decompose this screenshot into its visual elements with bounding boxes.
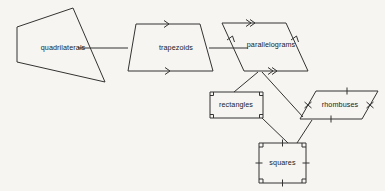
diagram-canvas: quadrilaterals trapezoids (0, 0, 385, 191)
connector-group (78, 48, 312, 143)
right-angle-mark-bottom-right-icon (260, 115, 264, 119)
node-rhombuses[interactable]: rhombuses (300, 88, 378, 123)
connector-parallelograms-to-rhombuses (262, 72, 303, 117)
node-label-trapezoids: trapezoids (159, 43, 193, 52)
node-parallelograms[interactable]: parallelograms (222, 20, 308, 75)
node-squares[interactable]: squares (256, 140, 310, 187)
connector-rectangles-to-squares (262, 118, 288, 143)
right-angle-mark-top-left-icon (259, 143, 263, 147)
right-angle-mark-top-right-icon (302, 143, 306, 147)
right-angle-mark-bottom-right-icon (302, 179, 306, 183)
quadrilateral-hierarchy-diagram: quadrilaterals trapezoids (0, 0, 385, 191)
node-label-rhombuses: rhombuses (322, 100, 359, 109)
right-angle-mark-bottom-left-icon (210, 115, 214, 119)
right-angle-mark-bottom-left-icon (259, 179, 263, 183)
node-label-rectangles: rectangles (219, 100, 253, 109)
node-label-parallelograms: parallelograms (247, 40, 296, 49)
right-angle-mark-top-right-icon (260, 92, 264, 96)
node-label-squares: squares (269, 158, 296, 167)
connector-parallelograms-to-rectangles (234, 72, 258, 92)
node-trapezoids[interactable]: trapezoids (128, 21, 213, 75)
node-quadrilaterals[interactable]: quadrilaterals (17, 8, 105, 82)
node-rectangles[interactable]: rectangles (210, 92, 263, 118)
right-angle-mark-top-left-icon (210, 92, 214, 96)
tick-mark-right-icon (367, 102, 374, 108)
tick-mark-left-icon (305, 102, 312, 108)
node-label-quadrilaterals: quadrilaterals (41, 43, 86, 52)
connector-rhombuses-to-squares (297, 120, 312, 143)
